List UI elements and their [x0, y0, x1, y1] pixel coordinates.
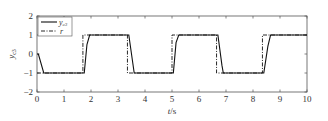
x-tick-label: 1 — [62, 94, 67, 104]
x-tick-label: 0 — [35, 94, 40, 104]
x-tick-label: 8 — [251, 94, 256, 104]
y-tick-label: −2 — [23, 87, 33, 97]
x-tick-label: 2 — [89, 94, 94, 104]
series-lines — [37, 35, 307, 73]
x-tick-label: 9 — [278, 94, 283, 104]
y-tick-label: 0 — [29, 49, 34, 59]
legend: yc3r — [38, 17, 72, 36]
y-tick-label: 1 — [29, 30, 34, 40]
chart: 012345678910210−1−2t/syc3 yc3r — [0, 0, 328, 121]
x-tick-label: 5 — [170, 94, 175, 104]
x-tick-label: 4 — [143, 94, 148, 104]
x-axis-label: t/s — [168, 106, 177, 116]
x-tick-label: 3 — [116, 94, 121, 104]
x-tick-label: 6 — [197, 94, 202, 104]
y-tick-label: 2 — [29, 11, 34, 21]
y-tick-label: −1 — [23, 68, 33, 78]
x-tick-label: 10 — [303, 94, 313, 104]
y-axis-label: yc3 — [6, 49, 17, 60]
x-tick-label: 7 — [224, 94, 229, 104]
